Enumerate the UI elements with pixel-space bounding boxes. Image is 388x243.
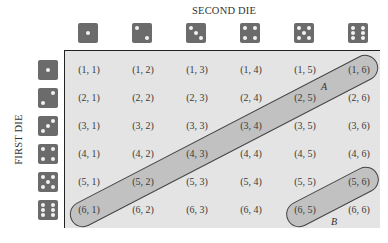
pip: [41, 203, 45, 207]
outcome-cell: (6, 4): [231, 204, 271, 215]
die-face-6-icon: [38, 200, 58, 220]
pip: [351, 36, 355, 40]
die-face-3-icon: [186, 23, 206, 43]
pip: [351, 26, 355, 30]
outcome-cell: (2, 1): [69, 92, 109, 103]
pip: [297, 26, 301, 30]
pip: [243, 26, 247, 30]
pip: [41, 147, 45, 151]
pip: [46, 180, 50, 184]
pip: [41, 101, 45, 105]
first-die-axis-label: FIRST DIE: [13, 110, 24, 170]
outcome-cell: (5, 3): [177, 176, 217, 187]
pip: [51, 213, 55, 217]
outcome-cell: (5, 2): [123, 176, 163, 187]
outcome-cell: (1, 5): [285, 64, 325, 75]
die-face-1-icon: [38, 60, 58, 80]
pip: [51, 208, 55, 212]
pip: [253, 26, 257, 30]
pip: [194, 31, 198, 35]
die-face-5-icon: [294, 23, 314, 43]
outcome-cell: (3, 4): [231, 120, 271, 131]
pip: [51, 157, 55, 161]
outcome-cell: (1, 1): [69, 64, 109, 75]
pip: [51, 119, 55, 123]
outcome-cell: (5, 6): [339, 176, 379, 187]
pip: [297, 36, 301, 40]
outcome-cell: (4, 1): [69, 148, 109, 159]
pip: [145, 36, 149, 40]
die-face-2-icon: [38, 88, 58, 108]
pip: [361, 36, 365, 40]
pip: [41, 175, 45, 179]
die-face-6-icon: [348, 23, 368, 43]
pip: [51, 185, 55, 189]
outcome-cell: (4, 3): [177, 148, 217, 159]
outcome-cell: (2, 2): [123, 92, 163, 103]
second-die-axis-label: SECOND DIE: [192, 5, 256, 16]
outcome-cell: (6, 6): [339, 204, 379, 215]
outcome-cell: (3, 1): [69, 120, 109, 131]
pip: [307, 26, 311, 30]
pip: [307, 36, 311, 40]
pip: [51, 147, 55, 151]
outcome-cell: (3, 2): [123, 120, 163, 131]
outcome-cell: (1, 3): [177, 64, 217, 75]
event-a-label: A: [321, 81, 327, 92]
pip: [41, 185, 45, 189]
pip: [135, 26, 139, 30]
outcome-cell: (3, 6): [339, 120, 379, 131]
pip: [351, 31, 355, 35]
outcome-cell: (5, 5): [285, 176, 325, 187]
pip: [41, 129, 45, 133]
outcome-cell: (6, 5): [285, 204, 325, 215]
pip: [189, 26, 193, 30]
die-face-4-icon: [38, 144, 58, 164]
pip: [46, 124, 50, 128]
die-face-2-icon: [132, 23, 152, 43]
outcome-cell: (5, 1): [69, 176, 109, 187]
outcome-grid: A B (1, 1)(1, 2)(1, 3)(1, 4)(1, 5)(1, 6)…: [64, 50, 380, 228]
pip: [41, 213, 45, 217]
pip: [302, 31, 306, 35]
outcome-cell: (5, 4): [231, 176, 271, 187]
outcome-cell: (4, 6): [339, 148, 379, 159]
pip: [199, 36, 203, 40]
outcome-cell: (1, 6): [339, 64, 379, 75]
pip: [86, 31, 90, 35]
pip: [41, 157, 45, 161]
outcome-cell: (6, 3): [177, 204, 217, 215]
outcome-cell: (1, 4): [231, 64, 271, 75]
outcome-cell: (2, 3): [177, 92, 217, 103]
outcome-cell: (4, 2): [123, 148, 163, 159]
outcome-cell: (2, 5): [285, 92, 325, 103]
outcome-cell: (3, 3): [177, 120, 217, 131]
outcome-cell: (4, 5): [285, 148, 325, 159]
die-face-5-icon: [38, 172, 58, 192]
pip: [243, 36, 247, 40]
pip: [361, 26, 365, 30]
pip: [51, 203, 55, 207]
pip: [253, 36, 257, 40]
outcome-cell: (6, 2): [123, 204, 163, 215]
pip: [46, 68, 50, 72]
outcome-cell: (1, 2): [123, 64, 163, 75]
die-face-3-icon: [38, 116, 58, 136]
outcome-cell: (2, 6): [339, 92, 379, 103]
outcome-cell: (3, 5): [285, 120, 325, 131]
outcome-cell: (2, 4): [231, 92, 271, 103]
pip: [41, 208, 45, 212]
pip: [51, 175, 55, 179]
event-b-label: B: [331, 216, 337, 227]
die-face-1-icon: [78, 23, 98, 43]
pip: [51, 91, 55, 95]
die-face-4-icon: [240, 23, 260, 43]
pip: [361, 31, 365, 35]
outcome-cell: (4, 4): [231, 148, 271, 159]
outcome-cell: (6, 1): [69, 204, 109, 215]
